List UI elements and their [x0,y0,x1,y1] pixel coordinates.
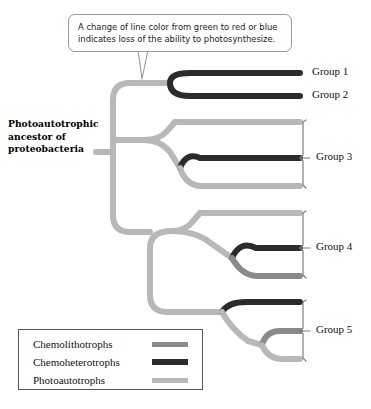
tip-group3-b [180,156,300,168]
group-label-5: Group 5 [316,323,352,335]
branch-group3-inner-stem [144,140,180,168]
legend-row-chemolithotrophs: Chemolithotrophs [19,335,202,353]
tip-group5-c [262,345,300,359]
callout-box: A change of line color from green to red… [68,14,292,52]
tip-group4-b [232,246,300,258]
legend-swatch-photoautotrophs [152,378,188,383]
legend-swatch-chemolithotrophs [152,342,188,347]
legend-label-photoautotrophs: Photoautotrophs [33,374,105,386]
legend-label-chemoheterotrophs: Chemoheterotrophs [33,356,120,368]
branch-lower-fork [150,231,172,312]
branch-root-fork [113,83,130,232]
diagram-canvas: A change of line color from green to red… [0,0,371,409]
ancestor-label: Photoautotrophic ancestor of proteobacte… [8,118,104,156]
bracket-group4 [300,211,306,278]
bracket-group3 [300,120,306,188]
branch-group4-inner-stem [172,231,232,258]
branch-group5-inner-stem [222,312,262,345]
legend: Chemolithotrophs Chemoheterotrophs Photo… [18,329,203,390]
callout-pointer [138,50,148,79]
legend-row-photoautotrophs: Photoautotrophs [19,371,202,389]
group-label-4: Group 4 [316,240,352,252]
tip-group3-c [180,168,300,186]
tip-group4-c [232,258,300,276]
group-label-2: Group 2 [312,88,348,100]
callout-text: A change of line color from green to red… [78,22,277,44]
tip-group5-a [222,302,300,312]
legend-row-chemoheterotrophs: Chemoheterotrophs [19,353,202,371]
legend-label-chemolithotrophs: Chemolithotrophs [33,338,112,350]
tip-group5-b [262,331,300,345]
group-label-3: Group 3 [316,150,352,162]
group-label-1: Group 1 [312,65,348,77]
branch-group12-fork [170,73,300,96]
legend-swatch-chemoheterotrophs [152,359,188,365]
